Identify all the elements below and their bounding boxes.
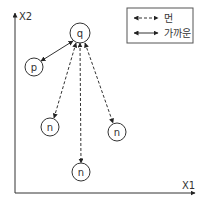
node-n1: n [41, 118, 59, 136]
y-axis-label: X2 [19, 11, 32, 22]
edge-q-n3-far [80, 43, 81, 163]
edge-q-n1-far [54, 43, 76, 118]
x-axis-label: X1 [182, 180, 195, 191]
legend-far-label: 먼 [164, 13, 173, 24]
node-n2: n [108, 123, 126, 141]
edge-q-p-near [41, 41, 73, 61]
node-n1-label: n [47, 122, 53, 133]
edge-q-n2-far [85, 43, 113, 123]
edges [41, 41, 113, 163]
node-n3: n [72, 163, 90, 181]
legend-near-label: 가까운 [164, 28, 191, 39]
node-n3-label: n [78, 167, 84, 178]
diagram-canvas: X2 X1 q p n n n 먼 가까운 [0, 0, 206, 207]
node-p-label: p [31, 62, 37, 73]
node-p: p [25, 58, 43, 76]
node-q: q [70, 23, 90, 43]
node-q-label: q [77, 28, 83, 39]
node-n2-label: n [114, 127, 120, 138]
legend: 먼 가까운 [127, 8, 193, 43]
